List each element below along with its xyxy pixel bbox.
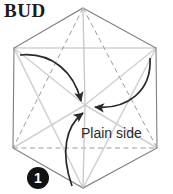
step-number-badge: 1 bbox=[27, 167, 49, 189]
crease-center-to-bottom bbox=[83, 105, 85, 188]
fold-triangle-spoke-upper-right bbox=[85, 48, 156, 105]
origami-figure-panel: BUD Plain side 1 bbox=[0, 0, 173, 194]
fold-arrow-from-bottom bbox=[66, 113, 83, 186]
origami-diagram bbox=[0, 0, 173, 194]
plain-side-label: Plain side bbox=[81, 126, 142, 140]
fold-arrow-from-upper-right bbox=[95, 58, 150, 107]
crease-top-to-center bbox=[83, 8, 85, 105]
fold-triangle-spoke-upper-left bbox=[14, 48, 85, 105]
figure-title: BUD bbox=[4, 1, 46, 20]
